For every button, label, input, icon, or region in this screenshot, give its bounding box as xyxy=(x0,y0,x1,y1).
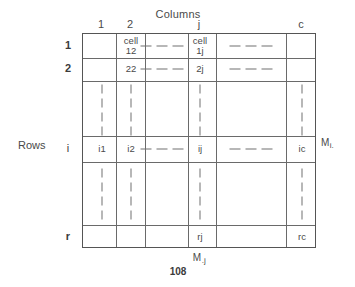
table-grid: cell12cell1j222ji1i2ijicrjrc xyxy=(82,33,316,248)
row-1-ellipsis-left xyxy=(141,46,184,47)
grid-vertical-line-4 xyxy=(286,34,287,247)
row-i-ellipsis-left xyxy=(141,149,184,150)
column-header-c: c xyxy=(298,18,304,30)
grid-horizontal-line-0 xyxy=(83,58,315,59)
grid-vertical-line-0 xyxy=(116,34,117,247)
grid-horizontal-line-3 xyxy=(83,162,315,163)
cell-i-j: ij xyxy=(198,144,202,154)
row-header-2: 2 xyxy=(65,62,71,74)
cell-r-c: rc xyxy=(298,232,306,242)
col-c-ellipsis-lower xyxy=(302,169,303,220)
row-2-ellipsis-right xyxy=(230,69,273,70)
row-header-i: i xyxy=(67,142,69,154)
figure-contingency-table: Columns Rows 12jc 12ir cell12cell1j222ji… xyxy=(0,0,355,287)
cell-r-j: rj xyxy=(197,232,202,242)
column-header-1: 1 xyxy=(98,18,104,30)
row-header-1: 1 xyxy=(65,39,71,51)
columns-axis-label: Columns xyxy=(156,8,201,20)
cell-i-c: ic xyxy=(299,144,306,154)
row-1-ellipsis-right xyxy=(230,46,273,47)
row-header-r: r xyxy=(66,230,70,242)
grid-vertical-line-2 xyxy=(188,34,189,247)
cell-1-j: cell1j xyxy=(193,36,207,56)
row-marginal-subscript: i. xyxy=(330,141,334,150)
col-1-ellipsis-upper xyxy=(102,85,103,136)
page-number: 108 xyxy=(170,266,187,277)
column-marginal-subscript: .j xyxy=(202,256,206,265)
col-1-ellipsis-lower xyxy=(102,169,103,220)
col-j-ellipsis-lower xyxy=(200,169,201,220)
col-2-ellipsis-upper xyxy=(131,85,132,136)
cell-2-j: 2j xyxy=(196,64,203,74)
cell-2-2: 22 xyxy=(126,64,137,74)
grid-horizontal-line-1 xyxy=(83,81,315,82)
grid-vertical-line-3 xyxy=(216,34,217,247)
grid-horizontal-line-4 xyxy=(83,225,315,226)
cell-1-2: cell12 xyxy=(124,36,138,56)
column-marginal-label: M.j xyxy=(193,252,205,263)
row-marginal-base: M xyxy=(321,137,329,148)
row-2-ellipsis-left xyxy=(141,69,184,70)
cell-i-1: i1 xyxy=(98,144,105,154)
column-header-2: 2 xyxy=(127,18,133,30)
col-c-ellipsis-upper xyxy=(302,85,303,136)
grid-vertical-line-1 xyxy=(145,34,146,247)
cell-i-2: i2 xyxy=(127,144,134,154)
rows-axis-label: Rows xyxy=(18,139,46,151)
grid-horizontal-line-2 xyxy=(83,136,315,137)
row-i-ellipsis-right xyxy=(230,149,273,150)
column-header-j: j xyxy=(198,18,200,30)
row-marginal-label: Mi. xyxy=(321,137,333,148)
column-marginal-base: M xyxy=(193,252,201,263)
col-j-ellipsis-upper xyxy=(200,85,201,136)
col-2-ellipsis-lower xyxy=(131,169,132,220)
